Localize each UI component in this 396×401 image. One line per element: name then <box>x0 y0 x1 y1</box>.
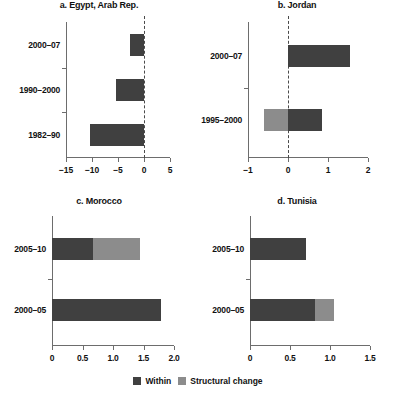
x-axis-tick-label: 1.0 <box>324 353 335 363</box>
panel-morocco: c. Morocco00.51.01.52.02005–102000–05 <box>0 196 198 372</box>
bar-group <box>250 299 370 321</box>
bar-segment-within <box>288 45 350 67</box>
legend-label: Within <box>145 376 171 386</box>
bar-group <box>66 124 170 146</box>
x-axis-tick-label: −1 <box>243 165 252 175</box>
x-axis-tick-label: 0 <box>248 353 253 363</box>
x-axis-tick-label: 0 <box>50 353 55 363</box>
panel-jordan: b. Jordan−10122000–071995–2000 <box>198 0 396 200</box>
y-axis-tick <box>48 279 52 280</box>
x-axis-tick <box>288 158 289 162</box>
y-axis-category-label: 2000–05 <box>212 305 244 315</box>
panel-title: c. Morocco <box>0 196 198 206</box>
y-axis-line <box>250 216 251 346</box>
y-axis-category-label: 2005–10 <box>14 244 46 254</box>
x-axis-tick <box>144 346 145 350</box>
x-axis-line <box>248 157 368 158</box>
bar-segment-within <box>116 79 144 101</box>
x-axis-tick-label: 1.5 <box>364 353 375 363</box>
zero-reference-line <box>288 16 289 158</box>
bar-segment-structural-change <box>93 238 141 260</box>
bar-group <box>248 45 368 67</box>
bar-segment-within <box>288 109 322 131</box>
bar-segment-within <box>52 238 93 260</box>
y-axis-category-label: 1982–90 <box>28 130 60 140</box>
bar-group <box>52 238 174 260</box>
bar-segment-within <box>130 34 144 56</box>
x-axis-tick-label: −15 <box>59 165 73 175</box>
panel-egypt: a. Egypt, Arab Rep.−15−10−5052000–071990… <box>0 0 198 200</box>
plot-area: −15−10−5052000–071990–20001982–90 <box>66 22 170 158</box>
bar-segment-structural-change <box>264 109 288 131</box>
bar-group <box>250 238 370 260</box>
x-axis-tick-label: −10 <box>85 165 99 175</box>
bar-segment-structural-change <box>315 299 334 321</box>
x-axis-tick <box>370 346 371 350</box>
legend-swatch-within <box>133 377 141 385</box>
bar-group <box>66 79 170 101</box>
bar-segment-within <box>52 299 161 321</box>
y-axis-tick <box>62 68 66 69</box>
y-axis-line <box>248 22 249 158</box>
x-axis-tick <box>328 158 329 162</box>
panel-title: b. Jordan <box>198 0 396 10</box>
legend-item: Structural change <box>178 376 262 386</box>
y-axis-line <box>52 216 53 346</box>
x-axis-tick-label: 1 <box>326 165 331 175</box>
x-axis-tick-label: 0.5 <box>284 353 295 363</box>
x-axis-tick-label: 0 <box>286 165 291 175</box>
multi-panel-bar-chart: a. Egypt, Arab Rep.−15−10−5052000–071990… <box>0 0 396 401</box>
x-axis-tick <box>174 346 175 350</box>
x-axis-tick-label: 0.5 <box>77 353 88 363</box>
x-axis-tick-label: 1.5 <box>138 353 149 363</box>
x-axis-tick <box>290 346 291 350</box>
x-axis-tick <box>144 158 145 162</box>
bar-group <box>248 109 368 131</box>
y-axis-tick <box>244 88 248 89</box>
y-axis-category-label: 2000–07 <box>28 40 60 50</box>
x-axis-tick <box>170 158 171 162</box>
x-axis-tick <box>92 158 93 162</box>
panel-title: a. Egypt, Arab Rep. <box>0 0 198 10</box>
plot-area: 00.51.01.52005–102000–05 <box>250 216 370 346</box>
chart-legend: WithinStructural change <box>0 376 396 386</box>
x-axis-tick <box>52 346 53 350</box>
y-axis-tick <box>62 112 66 113</box>
x-axis-tick-label: 0 <box>142 165 147 175</box>
y-axis-category-label: 2000–07 <box>210 51 242 61</box>
panel-title: d. Tunisia <box>198 196 396 206</box>
x-axis-tick <box>66 158 67 162</box>
y-axis-category-label: 1995–2000 <box>201 115 242 125</box>
bar-segment-within <box>90 124 144 146</box>
x-axis-tick-label: 2 <box>366 165 371 175</box>
y-axis-tick <box>246 279 250 280</box>
x-axis-tick <box>113 346 114 350</box>
x-axis-tick <box>83 346 84 350</box>
panel-tunisia: d. Tunisia00.51.01.52005–102000–05 <box>198 196 396 372</box>
x-axis-tick-label: 2.0 <box>168 353 179 363</box>
bar-segment-within <box>250 238 306 260</box>
x-axis-tick <box>250 346 251 350</box>
legend-label: Structural change <box>190 376 262 386</box>
x-axis-line <box>250 345 370 346</box>
x-axis-tick-label: 1.0 <box>107 353 118 363</box>
x-axis-tick <box>118 158 119 162</box>
y-axis-category-label: 1990–2000 <box>19 85 60 95</box>
bar-segment-within <box>250 299 315 321</box>
y-axis-category-label: 2005–10 <box>212 244 244 254</box>
x-axis-tick <box>248 158 249 162</box>
plot-area: −10122000–071995–2000 <box>248 22 368 158</box>
x-axis-tick-label: 5 <box>168 165 173 175</box>
x-axis-tick <box>330 346 331 350</box>
legend-swatch-structural-change <box>178 377 186 385</box>
x-axis-tick-label: −5 <box>113 165 122 175</box>
bar-group <box>52 299 174 321</box>
x-axis-tick <box>368 158 369 162</box>
bar-group <box>66 34 170 56</box>
plot-area: 00.51.01.52.02005–102000–05 <box>52 216 174 346</box>
legend-item: Within <box>133 376 171 386</box>
y-axis-category-label: 2000–05 <box>14 305 46 315</box>
